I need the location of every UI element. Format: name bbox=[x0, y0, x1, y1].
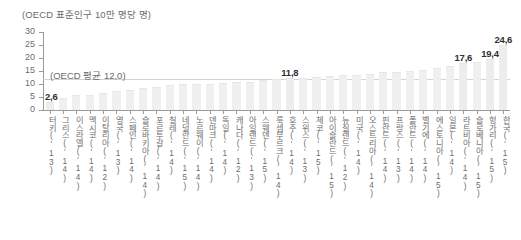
bar bbox=[206, 84, 214, 110]
x-category[interactable]: 캐나다('12) bbox=[230, 116, 243, 216]
bar bbox=[459, 63, 467, 110]
x-category[interactable]: 이탈리아('12) bbox=[96, 116, 109, 216]
bar-item[interactable] bbox=[430, 32, 443, 110]
bar bbox=[126, 90, 134, 110]
x-tick bbox=[297, 110, 310, 114]
bar-item[interactable] bbox=[310, 32, 323, 110]
bar-item[interactable]: 17,6 bbox=[457, 32, 470, 110]
x-tick bbox=[83, 110, 96, 114]
x-category[interactable]: 벨기에('14) bbox=[417, 116, 430, 216]
bar-item[interactable] bbox=[163, 32, 176, 110]
bar-item[interactable] bbox=[323, 32, 336, 110]
x-tick-mark bbox=[410, 110, 411, 114]
bar-item[interactable] bbox=[216, 32, 229, 110]
bar-item[interactable] bbox=[150, 32, 163, 110]
x-category[interactable]: 칠레('14) bbox=[163, 116, 176, 216]
x-category[interactable]: 터키('13) bbox=[43, 116, 56, 216]
x-category[interactable]: 호주('14) bbox=[283, 116, 296, 216]
x-tick bbox=[470, 110, 483, 114]
bar-item[interactable]: 2,6 bbox=[43, 32, 56, 110]
x-category[interactable]: 덴마크('14) bbox=[203, 116, 216, 216]
bar-item[interactable] bbox=[257, 32, 270, 110]
x-category[interactable]: 룩셈부르크('14) bbox=[270, 116, 283, 216]
bar-item[interactable] bbox=[363, 32, 376, 110]
bar-item[interactable] bbox=[470, 32, 483, 110]
bar-item[interactable] bbox=[443, 32, 456, 110]
bar-item[interactable] bbox=[243, 32, 256, 110]
x-tick-mark bbox=[383, 110, 384, 114]
x-tick-mark bbox=[223, 110, 224, 114]
bar-item[interactable] bbox=[136, 32, 149, 110]
x-tick bbox=[377, 110, 390, 114]
bar-item[interactable] bbox=[70, 32, 83, 110]
x-category[interactable]: 체코('15) bbox=[310, 116, 323, 216]
x-tick bbox=[403, 110, 416, 114]
x-category[interactable]: 슬로베니아('15) bbox=[470, 116, 483, 216]
bar bbox=[232, 82, 240, 110]
x-category[interactable]: 폴란드('14) bbox=[403, 116, 416, 216]
bar-item[interactable] bbox=[390, 32, 403, 110]
x-tick bbox=[430, 110, 443, 114]
x-category[interactable]: 노르웨이('14) bbox=[190, 116, 203, 216]
x-tick-mark bbox=[183, 110, 184, 114]
bar-item[interactable] bbox=[230, 32, 243, 110]
x-category[interactable]: 미국('14) bbox=[350, 116, 363, 216]
bar-item[interactable] bbox=[403, 32, 416, 110]
x-tick-mark bbox=[277, 110, 278, 114]
bar-item[interactable] bbox=[350, 32, 363, 110]
x-category[interactable]: 영국('13) bbox=[110, 116, 123, 216]
bar bbox=[392, 72, 400, 110]
x-category-label: 스페인('14) bbox=[127, 116, 135, 216]
x-tick bbox=[417, 110, 430, 114]
x-tick bbox=[283, 110, 296, 114]
x-category-label: 아일랜드('13) bbox=[247, 116, 255, 216]
x-category[interactable]: 스페인('14) bbox=[123, 116, 136, 216]
x-category[interactable]: 그리스('14) bbox=[56, 116, 69, 216]
x-category[interactable]: 스위스('13) bbox=[297, 116, 310, 216]
x-category-label: 그리스('14) bbox=[60, 116, 68, 216]
x-category[interactable]: 프랑스('13) bbox=[390, 116, 403, 216]
bar bbox=[339, 75, 347, 110]
bar bbox=[139, 88, 147, 110]
bar-item[interactable] bbox=[190, 32, 203, 110]
x-category-label: 이스라엘('14) bbox=[73, 116, 81, 216]
x-category[interactable]: 슬로바키아('14) bbox=[136, 116, 149, 216]
x-category-label: 독일('14) bbox=[220, 116, 228, 216]
x-category-label: 호주('14) bbox=[287, 116, 295, 216]
x-category[interactable]: 아이슬란드('15) bbox=[323, 116, 336, 216]
bar-item[interactable] bbox=[110, 32, 123, 110]
x-tick-mark bbox=[330, 110, 331, 114]
x-category[interactable]: 핀란드('14) bbox=[377, 116, 390, 216]
x-category[interactable]: 멕시코('14) bbox=[83, 116, 96, 216]
x-category[interactable]: 독일('14) bbox=[216, 116, 229, 216]
x-category[interactable]: 네덜란드('15) bbox=[176, 116, 189, 216]
x-category[interactable]: 뉴질랜드('12) bbox=[337, 116, 350, 216]
x-category[interactable]: 오스트리아('14) bbox=[363, 116, 376, 216]
bar-item[interactable] bbox=[176, 32, 189, 110]
bar-item[interactable] bbox=[96, 32, 109, 110]
bar-item[interactable] bbox=[337, 32, 350, 110]
bar-item[interactable]: 24,6 bbox=[497, 32, 510, 110]
x-tick-mark bbox=[103, 110, 104, 114]
x-category[interactable]: 이스라엘('14) bbox=[70, 116, 83, 216]
x-category[interactable]: 에스토니아('15) bbox=[430, 116, 443, 216]
bar-item[interactable] bbox=[377, 32, 390, 110]
x-category[interactable]: 스웨덴('15) bbox=[257, 116, 270, 216]
bar-item[interactable] bbox=[83, 32, 96, 110]
x-category[interactable]: 라트비아('14) bbox=[457, 116, 470, 216]
bar-item[interactable] bbox=[297, 32, 310, 110]
x-tick bbox=[110, 110, 123, 114]
x-category[interactable]: 포르투갈('14) bbox=[150, 116, 163, 216]
bar-item[interactable] bbox=[203, 32, 216, 110]
x-category[interactable]: 헝가리('15) bbox=[483, 116, 496, 216]
x-tick bbox=[337, 110, 350, 114]
bar-item[interactable]: 11,8 bbox=[283, 32, 296, 110]
bar-item[interactable] bbox=[56, 32, 69, 110]
x-category[interactable]: 아일랜드('13) bbox=[243, 116, 256, 216]
bar-item[interactable] bbox=[123, 32, 136, 110]
x-tick-mark bbox=[50, 110, 51, 114]
x-category[interactable]: 일본('14) bbox=[443, 116, 456, 216]
x-category[interactable]: 한국('15) bbox=[497, 116, 510, 216]
x-tick bbox=[70, 110, 83, 114]
bar-item[interactable] bbox=[417, 32, 430, 110]
